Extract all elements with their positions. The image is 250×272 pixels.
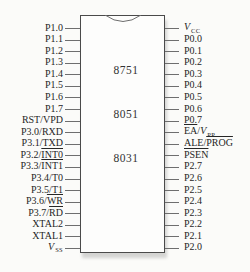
pin-label: P0.5 — [184, 91, 202, 103]
pin-label: P2.1 — [184, 230, 202, 242]
pin-p3-5-t1: P3.5/T1 — [0, 184, 80, 196]
pin-label: P2.3 — [184, 207, 202, 219]
pin-label: P1.1 — [45, 33, 63, 45]
pin-p0-6: P0.6 — [165, 103, 250, 115]
pin-label: ALE/PROG — [184, 137, 233, 149]
pin-line — [165, 225, 179, 226]
pin-p2-5: P2.5 — [165, 184, 250, 196]
pin-label: P1.7 — [45, 103, 63, 115]
pin-rst-vpd: RST/VPD — [0, 114, 80, 126]
pinout-diagram: 8751 8051 8031 P1.0P1.1P1.2P1.3P1.4P1.5P… — [0, 0, 250, 272]
pin-ale-prog: ALE/PROG — [165, 137, 250, 149]
pin-p1-1: P1.1 — [0, 33, 80, 45]
pin-line — [165, 167, 179, 168]
pin-psen: PSEN — [165, 149, 250, 161]
pin-label: P0.1 — [184, 45, 202, 57]
pin-line — [165, 236, 179, 237]
pin-p1-6: P1.6 — [0, 91, 80, 103]
pin-p2-1: P2.1 — [165, 230, 250, 242]
chip-model-top: 8751 — [81, 64, 164, 76]
pin-label: P1.0 — [45, 22, 63, 34]
pin-label: P0.2 — [184, 56, 202, 68]
pin-line — [65, 236, 80, 237]
pin-line — [65, 97, 80, 98]
chip-model-bottom: 8031 — [81, 152, 164, 164]
pin-p0-4: P0.4 — [165, 79, 250, 91]
pin-label: P3.5/T1 — [31, 184, 63, 196]
pin-label: P1.5 — [45, 79, 63, 91]
pin-line — [165, 28, 179, 29]
pin-label: PSEN — [184, 149, 208, 161]
pin-line — [65, 144, 80, 145]
pin-label: VCC — [184, 21, 200, 34]
pin-label: P3.0/RXD — [21, 126, 63, 138]
pin-label: P3.7/RD — [28, 207, 63, 219]
pin-label: P3.3/INT1 — [20, 160, 63, 172]
pin-label: P3.6/WR — [26, 195, 63, 207]
pin-label: P2.5 — [184, 184, 202, 196]
pin-label: P1.2 — [45, 45, 63, 57]
pin-line — [65, 121, 80, 122]
pin-p0-0: P0.0 — [165, 33, 250, 45]
pin-label: P1.3 — [45, 56, 63, 68]
pin-p2-0: P2.0 — [165, 241, 250, 253]
pin-line — [165, 40, 179, 41]
pin-line — [165, 213, 179, 214]
pin-label: P2.6 — [184, 172, 202, 184]
pin-p3-7-rd: P3.7/RD — [0, 207, 80, 219]
pin-line — [65, 167, 80, 168]
pin-ea-vpp: EA/VPP — [165, 126, 250, 138]
pin-line — [65, 51, 80, 52]
pin-vss: VSS — [0, 241, 80, 253]
pin-line — [165, 74, 179, 75]
pin-line — [165, 86, 179, 87]
pin-label: P3.4/T0 — [31, 172, 63, 184]
chip-body: 8751 8051 8031 — [80, 15, 165, 253]
pin-line — [165, 144, 179, 145]
pin-label: P2.7 — [184, 160, 202, 172]
pin-xtal2: XTAL2 — [0, 218, 80, 230]
pin-p2-3: P2.3 — [165, 207, 250, 219]
pin-line — [165, 179, 179, 180]
pin-line — [65, 40, 80, 41]
pin-vcc: VCC — [165, 22, 250, 34]
pin-line — [165, 132, 179, 133]
pin-line — [165, 190, 179, 191]
pin-label: P0.3 — [184, 68, 202, 80]
pin-label: P2.4 — [184, 195, 202, 207]
pin-line — [65, 28, 80, 29]
pin-line — [65, 63, 80, 64]
pin-line — [65, 213, 80, 214]
right-pin-column: VCCP0.0P0.1P0.2P0.3P0.4P0.5P0.6P0.7EA/VP… — [165, 0, 250, 272]
pin-label: VSS — [48, 241, 63, 254]
pin-label: P3.1/TXD — [22, 137, 63, 149]
pin-p3-3-int1: P3.3/INT1 — [0, 160, 80, 172]
pin-line — [65, 190, 80, 191]
pin-label: P0.4 — [184, 79, 202, 91]
pin-p1-5: P1.5 — [0, 79, 80, 91]
pin-line — [165, 63, 179, 64]
pin-p1-2: P1.2 — [0, 45, 80, 57]
chip-model-middle: 8051 — [81, 108, 164, 120]
pin-p0-3: P0.3 — [165, 68, 250, 80]
pin-line — [165, 97, 179, 98]
pin-label: P2.2 — [184, 218, 202, 230]
pin-line — [65, 155, 80, 156]
pin-line — [65, 225, 80, 226]
left-pin-column: P1.0P1.1P1.2P1.3P1.4P1.5P1.6P1.7RST/VPDP… — [0, 0, 80, 272]
pin-line — [165, 248, 179, 249]
pin-p2-4: P2.4 — [165, 195, 250, 207]
pin-p2-7: P2.7 — [165, 160, 250, 172]
pin-label: P0.6 — [184, 103, 202, 115]
pin-p3-1-txd: P3.1/TXD — [0, 137, 80, 149]
pin-xtal1: XTAL1 — [0, 230, 80, 242]
pin-p0-5: P0.5 — [165, 91, 250, 103]
pin-p1-7: P1.7 — [0, 103, 80, 115]
pin-line — [65, 109, 80, 110]
pin-line — [165, 109, 179, 110]
pin-p3-6-wr: P3.6/WR — [0, 195, 80, 207]
pin-label: P1.6 — [45, 91, 63, 103]
pin-line — [65, 132, 80, 133]
pin-label: P0.0 — [184, 33, 202, 45]
pin-line — [165, 51, 179, 52]
